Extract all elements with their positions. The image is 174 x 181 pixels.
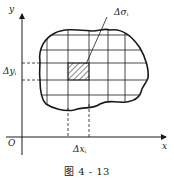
region-boundary — [40, 29, 149, 110]
delta-y-label: Δyi — [3, 67, 16, 76]
figure-caption: 图 4 - 13 — [0, 163, 174, 178]
x-axis-label: x — [162, 142, 167, 151]
origin-label: O — [8, 139, 15, 148]
partition-grid — [30, 20, 160, 120]
delta-x-label: Δxi — [73, 145, 86, 154]
delta-sigma-label: Δσi — [114, 8, 128, 17]
highlighted-cell — [68, 63, 89, 80]
double-integral-partition-diagram — [0, 0, 174, 181]
y-axis-label: y — [9, 5, 14, 14]
